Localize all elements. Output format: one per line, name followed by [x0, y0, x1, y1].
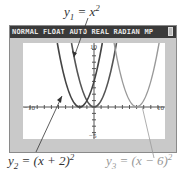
xmin-label: −10: [24, 104, 35, 112]
calculator-screen: NORMAL FLOAT AUTO REAL RADIAN MP: [9, 25, 177, 153]
ymin-label: −5: [89, 132, 97, 139]
graph-area: −10 10 10 −5: [23, 43, 165, 139]
y3-sub: 3: [112, 161, 117, 171]
y3-equation-label: y3 = (x − 6)2: [106, 152, 172, 171]
status-text: NORMAL FLOAT AUTO REAL RADIAN MP: [12, 28, 153, 36]
y1-sup: 2: [95, 3, 100, 13]
y3-rhs: = (x − 6): [120, 153, 168, 168]
y3-sup: 2: [168, 152, 173, 162]
y2-sup: 2: [70, 152, 75, 162]
y1-sub: 1: [70, 12, 75, 22]
battery-icon: [168, 27, 173, 36]
xmax-label: 10: [157, 104, 165, 112]
curve-y3: [114, 43, 159, 107]
y2-rhs: = (x + 2): [22, 153, 70, 168]
y2-equation-label: y2 = (x + 2)2: [8, 152, 74, 171]
status-bar: NORMAL FLOAT AUTO REAL RADIAN MP: [10, 26, 176, 38]
ymax-label: 10: [90, 43, 98, 51]
graph-svg: −10 10 10 −5: [23, 43, 165, 139]
y2-sub: 2: [14, 161, 19, 171]
y1-rhs: = x: [78, 4, 96, 19]
curve-y2: [57, 43, 102, 107]
y1-equation-label: y1 = x2: [64, 3, 100, 22]
